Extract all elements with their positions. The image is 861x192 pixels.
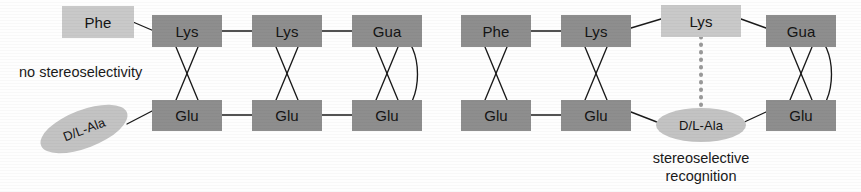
caption-no-stereoselectivity: no stereoselectivity [19,64,142,81]
node-label: Gua [787,24,816,39]
node-right-glu-2[interactable]: Glu [561,100,631,131]
node-left-glu-2[interactable]: Glu [252,100,322,131]
node-label: Phe [483,24,510,39]
node-left-lys-1[interactable]: Lys [152,15,222,47]
bond-r-lys2-gua [741,19,766,28]
node-right-dl-ala[interactable]: D/L-Ala [656,108,746,142]
node-label: Phe [85,15,112,30]
node-label: Glu [375,108,399,123]
node-right-lys-1[interactable]: Lys [561,15,631,47]
diagram-canvas: Phe Lys Lys Gua D/L-Ala Glu Glu Glu no s… [0,0,861,192]
caption-stereoselective-line-1: stereoselective [631,150,771,167]
node-label: Gua [373,24,402,39]
node-label: Glu [789,108,813,123]
node-label: Lys [584,24,607,39]
node-label: Glu [584,108,608,123]
bond-l-ala-glu1 [127,110,154,124]
node-left-glu-1[interactable]: Glu [152,100,222,131]
node-right-glu-3[interactable]: Glu [766,100,836,131]
node-label: Lys [275,24,298,39]
bond-r-lys1-lys2 [631,19,661,28]
node-label: Lys [689,14,712,29]
node-right-lys-2[interactable]: Lys [661,5,741,37]
node-label: D/L-Ala [679,119,723,132]
node-right-phe[interactable]: Phe [461,15,531,47]
node-label: Glu [175,108,199,123]
bond-l-phe-lys [133,22,154,31]
node-right-gua[interactable]: Gua [766,15,836,47]
node-left-phe[interactable]: Phe [62,6,134,38]
node-left-gua[interactable]: Gua [352,15,422,47]
node-label: Lys [175,24,198,39]
node-label: Glu [275,108,299,123]
caption-stereoselective-line-2: recognition [631,168,771,185]
node-label: Glu [484,108,508,123]
node-left-lys-2[interactable]: Lys [252,15,322,47]
node-label: D/L-Ala [61,115,107,143]
node-left-glu-3[interactable]: Glu [352,100,422,131]
node-right-glu-1[interactable]: Glu [461,100,531,131]
